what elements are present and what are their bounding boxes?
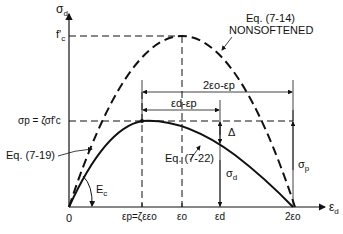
eq-722-label: Eq. (7-22) bbox=[165, 153, 214, 164]
peak-point bbox=[140, 119, 144, 123]
origin-label: 0 bbox=[66, 213, 72, 224]
ec-slope-arc bbox=[83, 176, 92, 206]
eq-719-label: Eq. (7-19) bbox=[6, 150, 55, 161]
tick-eps-p: εp=ζεεo bbox=[122, 212, 157, 222]
sigma-p-right-label: σp bbox=[298, 159, 309, 173]
ec-label: Ec bbox=[96, 184, 107, 198]
sigma-d-label: σd bbox=[226, 168, 237, 182]
leader-719 bbox=[58, 149, 92, 156]
dim-ed-minus-ep-label: εd-εp bbox=[171, 98, 197, 109]
x-axis-label: εd bbox=[329, 201, 339, 216]
fc-label: f'c bbox=[56, 29, 65, 43]
leader-714 bbox=[222, 37, 232, 50]
tick-eps-d: εd bbox=[215, 212, 225, 222]
nonsoftened-eq-label: Eq. (7-14) bbox=[246, 13, 295, 24]
nonsoftened-name-label: NONSOFTENED bbox=[229, 25, 313, 36]
sigma-p-label: σp = ζσf'c bbox=[18, 116, 61, 126]
dim-2eo-minus-ep-label: 2εo-εp bbox=[203, 80, 235, 91]
tick-2eps-o: 2εo bbox=[285, 212, 301, 222]
tick-eps-o: εo bbox=[177, 212, 187, 222]
delta-label: Δ bbox=[228, 127, 235, 138]
y-axis-label: σd bbox=[56, 3, 68, 18]
